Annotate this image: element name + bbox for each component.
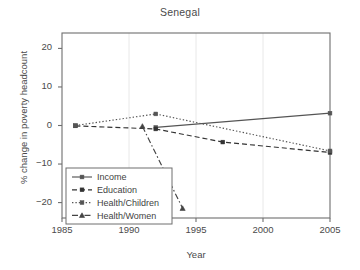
data-point-marker	[180, 206, 185, 211]
legend-label: Income	[97, 172, 127, 182]
data-point-marker	[328, 149, 332, 153]
x-tick-label: 1990	[106, 224, 152, 235]
legend-label: Health/Women	[97, 211, 156, 221]
data-point-marker	[328, 111, 332, 115]
x-tick-label: 1985	[39, 224, 85, 235]
y-tick-label: 20	[12, 41, 52, 52]
chart-figure: Senegal % change in poverty headcount Ye…	[0, 0, 360, 270]
series-income	[154, 111, 332, 129]
data-point-marker	[154, 112, 158, 116]
data-point-marker	[80, 201, 84, 205]
legend-label: Health/Children	[97, 198, 159, 208]
series-line	[75, 114, 330, 151]
y-tick-label: −20	[12, 196, 52, 207]
x-tick-label: 1995	[173, 224, 219, 235]
data-point-marker	[221, 140, 225, 144]
data-point-marker	[154, 127, 158, 131]
y-tick-label: −10	[12, 157, 52, 168]
x-tick-label: 2005	[307, 224, 353, 235]
legend-label: Education	[97, 185, 137, 195]
series-health-children	[74, 112, 332, 153]
series-line	[75, 126, 330, 153]
data-point-marker	[74, 124, 78, 128]
data-point-marker	[80, 175, 84, 179]
data-point-marker	[140, 124, 145, 129]
chart-legend: IncomeEducationHealth/ChildrenHealth/Wom…	[66, 168, 172, 224]
series-education	[74, 124, 332, 154]
data-point-marker	[80, 188, 84, 192]
series-line	[156, 113, 330, 127]
y-tick-label: 0	[12, 119, 52, 130]
x-tick-label: 2000	[240, 224, 286, 235]
y-tick-label: 10	[12, 80, 52, 91]
